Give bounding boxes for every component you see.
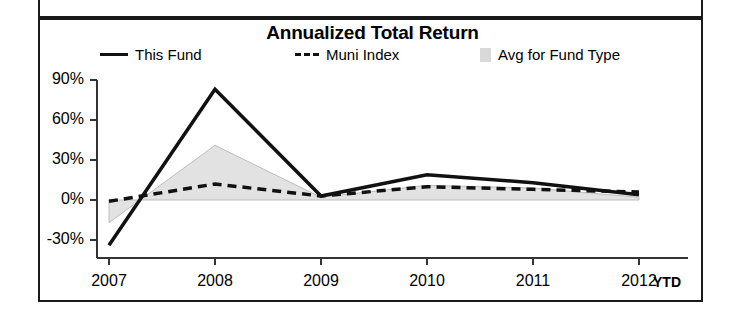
y-axis-tick-label: 0% [24, 190, 84, 208]
x-axis-tick-label: 2009 [286, 272, 356, 290]
annualized-total-return-panel: Annualized Total Return This Fund Muni I… [38, 18, 703, 302]
y-axis-tick-label: 60% [24, 110, 84, 128]
clipped-panel-above [38, 0, 703, 18]
plot-area: 90%60%30%0%-30% 200720082009201020112012… [40, 20, 705, 304]
plot-svg [40, 20, 705, 304]
y-axis-tick-label: 30% [24, 150, 84, 168]
y-axis-tick-label: 90% [24, 70, 84, 88]
x-axis-tick-label: 2008 [180, 272, 250, 290]
x-axis-tick-label: 2007 [74, 272, 144, 290]
y-axis-tick-label: -30% [24, 230, 84, 248]
ytd-label: YTD [653, 274, 681, 290]
x-axis-tick-label: 2011 [498, 272, 568, 290]
x-axis-tick-label: 2010 [392, 272, 462, 290]
chart-screenshot: Annualized Total Return This Fund Muni I… [0, 0, 733, 316]
